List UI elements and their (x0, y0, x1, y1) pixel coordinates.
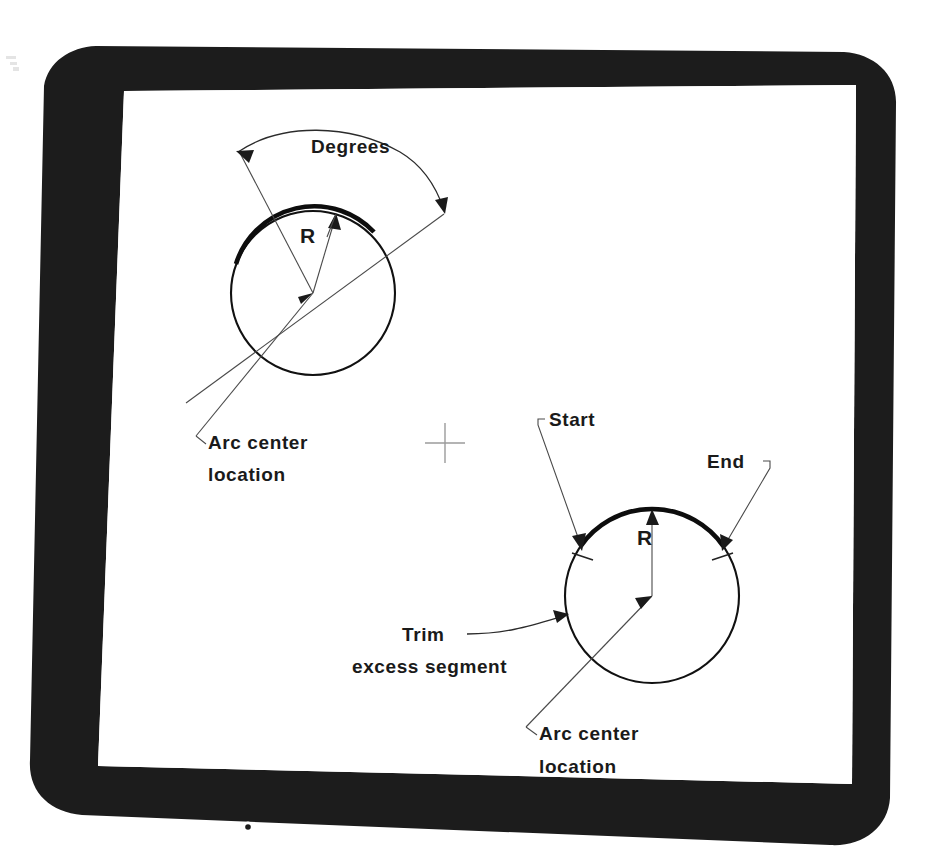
power-indicator-icon (243, 822, 254, 833)
label-radius-top: R (300, 224, 316, 247)
monitor-bezel-group (30, 46, 896, 845)
label-arc-center-top-line2: location (208, 464, 286, 485)
monitor-illustration: Degrees R Arc center location (0, 0, 936, 864)
corner-smudge-artifact (6, 56, 19, 71)
label-degrees: Degrees (311, 136, 390, 157)
label-arc-center-bottom-line2: location (539, 756, 617, 777)
label-radius-bottom: R (637, 526, 653, 549)
screenshot-root: Degrees R Arc center location (0, 0, 936, 864)
label-arc-center-top-line1: Arc center (208, 432, 308, 453)
label-trim: Trim (402, 624, 445, 645)
label-end: End (707, 451, 745, 472)
label-arc-center-bottom-line1: Arc center (539, 723, 639, 744)
label-start: Start (549, 409, 595, 430)
label-trim-second-line: excess segment (352, 656, 507, 677)
